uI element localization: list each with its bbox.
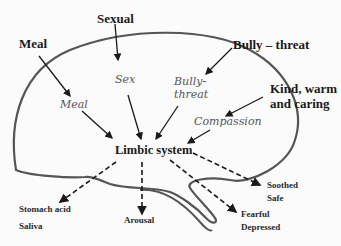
arrow-meal-limbic [82, 111, 112, 138]
limbic-system-label: Limbic system [115, 144, 192, 158]
stimulus-sexual: Sexual [97, 12, 134, 26]
stimulus-meal: Meal [19, 37, 47, 51]
output-depressed: Depressed [241, 223, 280, 233]
stimulus-bully-threat: Bully – threat [233, 38, 309, 52]
limbic-system-diagram: Meal Sexual Bully – threat Kind, warm an… [0, 0, 341, 246]
output-soothed: Soothed [267, 181, 298, 191]
stimulus-kind-line2: and caring [270, 97, 330, 111]
inner-bully-line2: threat [174, 89, 208, 101]
arrow-compassion-limbic [188, 130, 210, 143]
arrow-sexual-in [115, 24, 118, 60]
output-arousal: Arousal [124, 216, 154, 226]
inner-sex: Sex [115, 74, 135, 86]
arrow-bully-in [206, 48, 232, 74]
output-safe: Safe [267, 194, 284, 204]
output-fearful: Fearful [241, 210, 270, 220]
arrow-bully-limbic [156, 106, 178, 139]
inner-bully: Bully- [174, 76, 206, 88]
arrow-sex-limbic [128, 95, 141, 139]
inner-meal: Meal [60, 99, 88, 111]
arrow-meal-in [39, 56, 70, 96]
output-stomach-acid: Stomach acid [19, 205, 71, 215]
stimulus-kind: Kind, warm [270, 82, 337, 96]
arrow-kind-in [226, 97, 263, 116]
output-saliva: Saliva [19, 222, 43, 232]
inner-compassion: Compassion [194, 116, 262, 128]
